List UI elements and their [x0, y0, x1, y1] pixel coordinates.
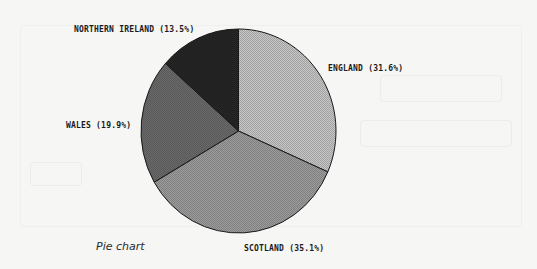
chart-caption: Pie chart — [96, 240, 145, 253]
label-northern-ireland: NORTHERN IRELAND (13.5%) — [74, 25, 194, 34]
pie-chart — [0, 0, 537, 269]
label-england: ENGLAND (31.6%) — [328, 64, 403, 73]
label-wales: WALES (19.9%) — [66, 121, 131, 130]
label-scotland: SCOTLAND (35.1%) — [244, 244, 324, 253]
